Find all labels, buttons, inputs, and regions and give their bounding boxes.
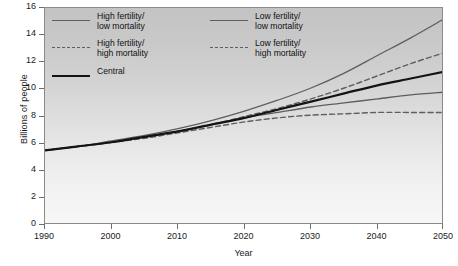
y-tick-label: 10 xyxy=(14,82,36,92)
legend-column-left: High fertility/ low mortalityHigh fertil… xyxy=(52,12,212,90)
y-tick-label: 8 xyxy=(14,110,36,120)
legend-item-label: Central xyxy=(97,67,125,77)
x-tick-mark xyxy=(44,224,45,229)
legend-item-label: High fertility/ low mortality xyxy=(97,12,145,31)
legend-item[interactable]: Low fertility/ high mortality xyxy=(210,39,375,58)
x-tick-mark xyxy=(310,224,311,229)
x-tick-label: 2050 xyxy=(423,231,458,241)
y-tick-label: 2 xyxy=(14,191,36,201)
y-tick-label: 14 xyxy=(14,28,36,38)
x-tick-label: 2040 xyxy=(357,231,397,241)
x-tick-label: 2010 xyxy=(157,231,197,241)
legend-column-right: Low fertility/ low mortalityLow fertilit… xyxy=(210,12,375,67)
x-tick-label: 1990 xyxy=(24,231,64,241)
legend-item[interactable]: Central xyxy=(52,67,212,82)
x-tick-mark xyxy=(442,224,443,229)
legend-swatch-solid-gray-icon xyxy=(52,15,90,27)
legend-swatch-dash-gray-icon xyxy=(210,42,248,54)
legend-item-label: High fertility/ high mortality xyxy=(97,39,148,58)
y-tick-label: 0 xyxy=(14,218,36,228)
x-tick-mark xyxy=(177,224,178,229)
legend-swatch-solid-gray-icon xyxy=(210,15,248,27)
x-tick-label: 2000 xyxy=(91,231,131,241)
legend-item[interactable]: Low fertility/ low mortality xyxy=(210,12,375,31)
x-tick-label: 2030 xyxy=(290,231,330,241)
legend-item[interactable]: High fertility/ high mortality xyxy=(52,39,212,58)
x-axis-title: Year xyxy=(44,248,443,258)
y-tick-label: 4 xyxy=(14,164,36,174)
y-tick-label: 16 xyxy=(14,1,36,11)
x-tick-mark xyxy=(377,224,378,229)
y-tick-label: 12 xyxy=(14,55,36,65)
x-tick-mark xyxy=(111,224,112,229)
legend-item-label: Low fertility/ low mortality xyxy=(255,12,303,31)
legend-item[interactable]: High fertility/ low mortality xyxy=(52,12,212,31)
x-tick-label: 2020 xyxy=(224,231,264,241)
x-tick-mark xyxy=(244,224,245,229)
legend-swatch-solid-black-icon xyxy=(52,70,90,82)
legend-swatch-dash-gray-icon xyxy=(52,42,90,54)
y-tick-label: 6 xyxy=(14,137,36,147)
legend-item-label: Low fertility/ high mortality xyxy=(255,39,306,58)
